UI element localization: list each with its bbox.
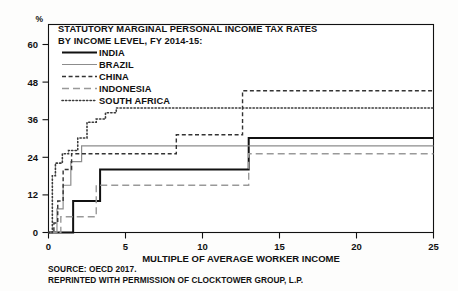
y-axis-ticks <box>43 45 49 233</box>
y-axis-unit-label: % <box>35 14 43 24</box>
y-tick-label-48: 48 <box>27 77 38 88</box>
legend-label-china: CHINA <box>99 72 129 82</box>
y-tick-label-24: 24 <box>27 152 38 163</box>
chart-title-line1: STATUTORY MARGINAL PERSONAL INCOME TAX R… <box>58 24 317 34</box>
reprint-note: REPRINTED WITH PERMISSION OF CLOCKTOWER … <box>48 275 303 285</box>
legend-label-indonesia: INDONESIA <box>99 84 152 94</box>
x-tick-label-0: 0 <box>46 241 51 252</box>
x-tick-label-25: 25 <box>428 241 439 252</box>
x-tick-label-10: 10 <box>197 241 208 252</box>
x-axis-ticks <box>49 233 434 239</box>
y-tick-label-60: 60 <box>27 39 38 50</box>
x-axis-title: MULTIPLE OF AVERAGE WORKER INCOME <box>142 253 340 264</box>
legend-label-south-africa: SOUTH AFRICA <box>99 96 170 106</box>
chart-figure: 0 12 24 36 48 60 % 0 5 10 15 20 25 MULTI… <box>0 0 458 291</box>
chart-svg: 0 12 24 36 48 60 % 0 5 10 15 20 25 MULTI… <box>0 0 458 291</box>
x-tick-label-20: 20 <box>351 241 362 252</box>
x-tick-label-15: 15 <box>274 241 285 252</box>
source-note: SOURCE: OECD 2017. <box>48 264 137 274</box>
x-tick-label-5: 5 <box>123 241 129 252</box>
legend-label-india: INDIA <box>99 48 125 58</box>
y-tick-label-0: 0 <box>33 227 38 238</box>
legend-label-brazil: BRAZIL <box>99 60 134 70</box>
y-tick-label-36: 36 <box>27 114 38 125</box>
y-tick-label-12: 12 <box>27 189 38 200</box>
chart-title-line2: BY INCOME LEVEL, FY 2014-15: <box>58 36 203 46</box>
